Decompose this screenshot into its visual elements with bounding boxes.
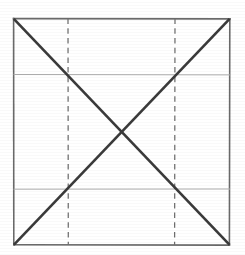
diagonal-cross (14, 19, 230, 245)
geometric-diagram (0, 0, 245, 255)
figure-root (0, 0, 245, 255)
